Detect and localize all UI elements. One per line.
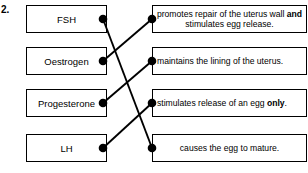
hormone-box-lh[interactable]: LH bbox=[26, 134, 107, 162]
function-label-egg-mature: causes the egg to mature. bbox=[177, 143, 282, 154]
connector-lines bbox=[103, 19, 152, 148]
matching-exercise-diagram: 2. FSH Oestrogen Progesterone LH promote… bbox=[0, 0, 308, 173]
hormone-box-fsh[interactable]: FSH bbox=[26, 5, 107, 33]
function-text-part1: stimulates release of an egg bbox=[157, 98, 265, 108]
function-box-maintains-lining[interactable]: maintains the lining of the uterus. bbox=[152, 47, 307, 75]
hormone-label-oestrogen: Oestrogen bbox=[41, 56, 91, 67]
hormone-label-lh: LH bbox=[57, 143, 75, 154]
hormone-label-fsh: FSH bbox=[54, 14, 79, 25]
hormone-box-oestrogen[interactable]: Oestrogen bbox=[26, 47, 107, 75]
question-number: 2. bbox=[1, 4, 9, 16]
function-label-uterus-wall-repair: promotes repair of the uterus wall and s… bbox=[153, 9, 306, 30]
function-box-egg-release-only[interactable]: stimulates release of an egg only. bbox=[152, 89, 307, 117]
function-text-bold: only bbox=[267, 98, 285, 108]
function-label-maintains-lining: maintains the lining of the uterus. bbox=[153, 56, 306, 67]
hormone-box-progesterone[interactable]: Progesterone bbox=[26, 89, 107, 117]
connector-line-lh-to-egg-release-only[interactable] bbox=[103, 103, 152, 148]
hormone-label-progesterone: Progesterone bbox=[35, 98, 98, 109]
function-text-part1: promotes repair of the uterus wall bbox=[157, 9, 285, 19]
function-box-uterus-wall-repair[interactable]: promotes repair of the uterus wall and s… bbox=[152, 5, 307, 33]
connector-dots bbox=[99, 15, 157, 153]
function-text-part2: stimulates egg release. bbox=[185, 19, 273, 29]
connector-line-oestrogen-to-uterus-wall-repair[interactable] bbox=[103, 19, 152, 61]
function-text-bold: and bbox=[287, 9, 302, 19]
connector-line-fsh-to-egg-mature[interactable] bbox=[103, 19, 152, 148]
function-text-part2: . bbox=[285, 98, 287, 108]
connector-line-progesterone-to-maintains-lining[interactable] bbox=[103, 61, 152, 103]
function-label-egg-release-only: stimulates release of an egg only. bbox=[153, 98, 306, 109]
function-box-egg-mature[interactable]: causes the egg to mature. bbox=[152, 134, 307, 162]
